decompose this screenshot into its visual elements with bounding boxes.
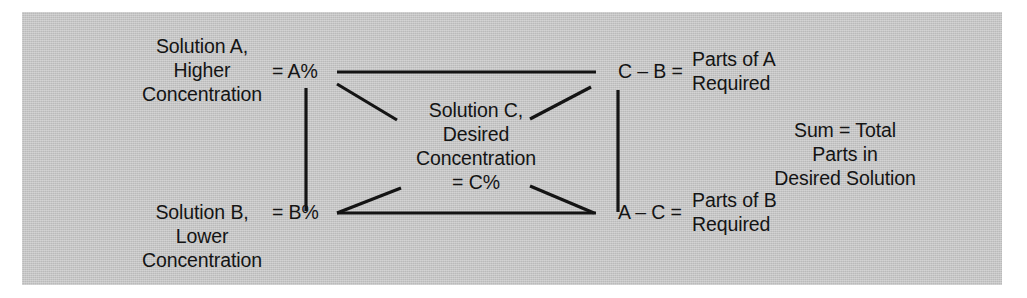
sum-total-label: Sum = Total Parts in Desired Solution: [740, 118, 950, 190]
solution-c-label: Solution C, Desired Concentration = C%: [396, 98, 556, 194]
solution-b-label: Solution B, Lower Concentration: [104, 200, 300, 272]
solution-b-value: = B%: [272, 200, 336, 224]
parts-a-expression: C – B =: [618, 59, 688, 83]
alligation-diagram: Solution A, Higher Concentration = A% So…: [0, 0, 1027, 298]
solution-a-label: Solution A, Higher Concentration: [104, 34, 300, 106]
parts-b-expression: A – C =: [618, 200, 688, 224]
parts-a-label: Parts of A Required: [692, 47, 842, 95]
parts-b-label: Parts of B Required: [692, 188, 842, 236]
solution-a-value: = A%: [272, 59, 336, 83]
